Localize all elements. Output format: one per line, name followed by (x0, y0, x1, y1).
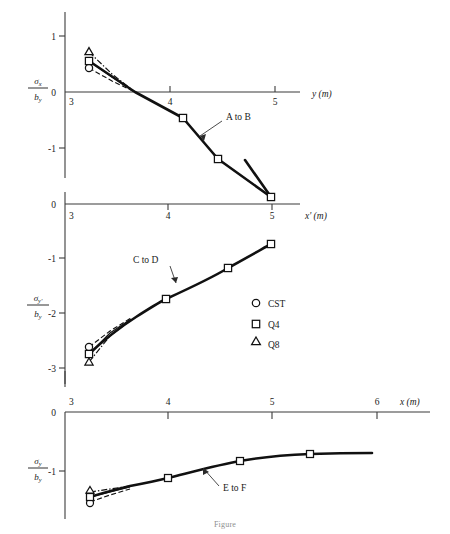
annotation-a-to-b: A to B (226, 112, 251, 122)
svg-text:σy': σy' (34, 293, 43, 304)
svg-text:by: by (34, 472, 42, 483)
x-ticklabel-4: 4 (168, 97, 173, 107)
x-ticklabel-3: 3 (69, 211, 74, 221)
marker-q4 (237, 458, 244, 465)
y-ticklabel-neg1: -1 (48, 467, 56, 477)
annotation-c-to-d: C to D (133, 255, 158, 265)
x-ticklabel-3: 3 (69, 397, 74, 407)
chart-panel-c-to-d: 0 -1 -2 -3 3 4 5 x' (m) σy' by (0, 170, 450, 385)
figure-caption: Figure (0, 520, 450, 534)
x-ticklabel-4: 4 (166, 397, 171, 407)
marker-q4 (85, 57, 92, 64)
x-axis-label: x (m) (399, 397, 420, 408)
svg-text:σx: σx (34, 76, 41, 87)
marker-q4 (307, 451, 314, 458)
x-ticklabel-3: 3 (69, 97, 74, 107)
svg-text:σy: σy (34, 456, 41, 467)
svg-text:by: by (34, 92, 42, 103)
svg-text:by: by (34, 309, 42, 320)
x-ticklabel-5: 5 (273, 97, 278, 107)
series-q4-main-line (89, 244, 271, 354)
y-ticklabel-neg1: -1 (48, 254, 56, 264)
marker-q4 (85, 350, 92, 357)
marker-q4 (267, 240, 274, 247)
annotation-arrowhead (171, 277, 178, 283)
y-axis-label: σy' by (27, 293, 49, 320)
chart-panel-a-to-b: 1 0 -1 3 4 5 y (m) σx by (0, 0, 450, 180)
legend-label-q4: Q4 (268, 320, 280, 330)
marker-q4 (165, 475, 172, 482)
x-axis-label: x' (m) (304, 211, 327, 222)
marker-q4 (162, 295, 169, 302)
y-ticklabel-neg1: -1 (48, 144, 56, 154)
series-q8-line (89, 320, 131, 362)
y-axis-label: σx by (28, 76, 48, 103)
chart-panel-e-to-f: 0 -1 3 4 5 6 x (m) σy by (0, 385, 450, 534)
x-ticklabel-6: 6 (375, 397, 380, 407)
legend: CST Q4 Q8 (252, 299, 286, 350)
marker-q8 (86, 487, 94, 494)
y-ticklabel-1: 1 (51, 32, 56, 42)
legend-label-q8: Q8 (268, 340, 280, 350)
y-ticklabel-neg3: -3 (48, 364, 56, 374)
marker-q4 (224, 264, 231, 271)
x-ticklabel-5: 5 (270, 211, 275, 221)
y-ticklabel-neg2: -2 (48, 309, 56, 319)
y-axis-label: σy by (28, 456, 48, 483)
annotation-leader (200, 121, 222, 136)
legend-marker-cst (252, 299, 259, 306)
legend-marker-q4 (252, 320, 259, 327)
legend-label-cst: CST (268, 299, 286, 309)
x-ticklabel-5: 5 (270, 397, 275, 407)
marker-q4 (179, 114, 186, 121)
x-ticklabel-4: 4 (166, 211, 171, 221)
marker-q4 (267, 193, 274, 200)
marker-q4 (214, 155, 221, 162)
x-axis-label: y (m) (311, 89, 332, 100)
stress-ratio-figure: 1 0 -1 3 4 5 y (m) σx by (0, 0, 450, 534)
legend-marker-q8 (252, 337, 261, 345)
y-ticklabel-0: 0 (51, 408, 56, 418)
y-ticklabel-0: 0 (51, 200, 56, 210)
marker-q4 (87, 494, 94, 501)
marker-cst (85, 64, 92, 71)
marker-q8 (85, 48, 93, 55)
y-ticklabel-0: 0 (51, 88, 56, 98)
annotation-e-to-f: E to F (223, 483, 246, 493)
marker-cst (85, 343, 92, 350)
